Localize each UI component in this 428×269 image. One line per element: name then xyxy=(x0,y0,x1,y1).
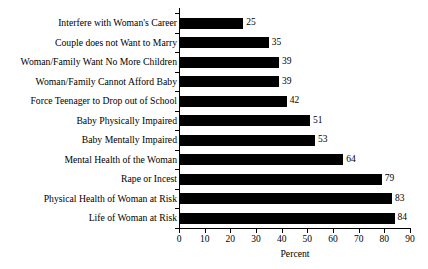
category-label: Physical Health of Woman at Risk xyxy=(44,193,177,204)
x-axis-tick xyxy=(384,229,385,233)
y-axis-tick xyxy=(175,130,179,131)
y-axis-tick xyxy=(175,33,179,34)
bar-value-label: 51 xyxy=(313,115,323,126)
y-axis-tick xyxy=(175,13,179,14)
bar-value-label: 64 xyxy=(346,154,356,165)
bar-value-label: 83 xyxy=(395,193,405,204)
bar xyxy=(179,213,395,224)
bar xyxy=(179,76,279,87)
x-axis-tick xyxy=(282,229,283,233)
bar xyxy=(179,37,269,48)
category-label: Baby Mentally Impaired xyxy=(82,134,177,145)
bar xyxy=(179,193,392,204)
bar xyxy=(179,115,310,126)
y-axis-tick xyxy=(175,52,179,53)
y-axis-tick xyxy=(175,228,179,229)
x-axis-tick xyxy=(179,229,180,233)
category-label: Life of Woman at Risk xyxy=(89,212,177,223)
bar xyxy=(179,135,315,146)
y-axis-tick xyxy=(175,91,179,92)
bar-value-label: 42 xyxy=(290,95,300,106)
x-axis-tick xyxy=(256,229,257,233)
x-axis-tick xyxy=(333,229,334,233)
bar-value-label: 79 xyxy=(385,173,395,184)
plot-area: 2535393942515364798384 Interfere with Wo… xyxy=(0,0,428,269)
bar-value-label: 39 xyxy=(282,56,292,67)
y-axis-tick xyxy=(175,208,179,209)
y-axis-tick xyxy=(175,72,179,73)
y-axis-tick xyxy=(175,169,179,170)
category-label: Interfere with Woman's Career xyxy=(58,17,177,28)
category-label: Mental Health of the Woman xyxy=(64,154,177,165)
bar xyxy=(179,57,279,68)
y-axis-tick xyxy=(175,111,179,112)
bar-value-label: 39 xyxy=(282,76,292,87)
x-axis-title: Percent xyxy=(179,248,411,260)
bar xyxy=(179,154,343,165)
category-label: Baby Physically Impaired xyxy=(76,115,177,126)
y-axis-tick xyxy=(175,189,179,190)
bar-value-label: 35 xyxy=(272,37,282,48)
bar-chart: 2535393942515364798384 Interfere with Wo… xyxy=(0,0,428,269)
bar-value-label: 53 xyxy=(318,134,328,145)
category-label: Force Teenager to Drop out of School xyxy=(30,95,177,106)
x-axis-tick xyxy=(230,229,231,233)
x-axis-tick-label: 90 xyxy=(395,234,425,245)
x-axis-tick xyxy=(307,229,308,233)
bar-value-label: 25 xyxy=(246,17,256,28)
bar xyxy=(179,96,287,107)
category-label: Woman/Family Want No More Children xyxy=(21,56,177,67)
x-axis-tick xyxy=(205,229,206,233)
x-axis-tick xyxy=(410,229,411,233)
bar xyxy=(179,18,243,29)
x-axis-line xyxy=(179,228,411,229)
bar-value-label: 84 xyxy=(398,212,408,223)
bar xyxy=(179,174,382,185)
category-label: Rape or Incest xyxy=(121,173,177,184)
category-label: Couple does not Want to Marry xyxy=(55,37,177,48)
category-label: Woman/Family Cannot Afford Baby xyxy=(36,76,177,87)
x-axis-tick xyxy=(359,229,360,233)
y-axis-tick xyxy=(175,150,179,151)
